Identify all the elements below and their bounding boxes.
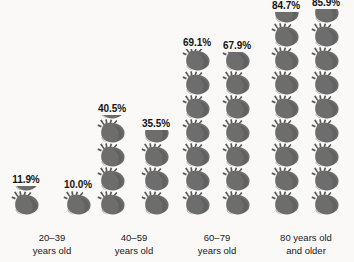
heart-icon-partial (222, 52, 252, 71)
heart-icon (311, 143, 341, 167)
bar-80-plus-a: 84.7% (269, 12, 303, 215)
bar-value-label: 10.0% (64, 179, 92, 190)
category-label-line2: years old (8, 245, 96, 258)
heart-icon (271, 119, 301, 143)
heart-icon-partial (141, 130, 171, 143)
heart-icon (271, 167, 301, 191)
heart-icon (222, 167, 252, 191)
bar-value-label: 11.9% (12, 174, 39, 185)
group-80-plus: 84.7%85.9%80 years oldand older (258, 0, 354, 262)
bar-columns: 40.5%35.5% (92, 115, 176, 215)
bar-60-79-b: 67.9% (220, 52, 254, 215)
heart-icon (311, 191, 341, 215)
heart-icon (271, 47, 301, 71)
category-label: 80 years oldand older (258, 232, 354, 257)
heart-icon-partial (97, 115, 127, 119)
bar-20-39-a: 11.9% (9, 186, 43, 215)
bar-columns: 69.1%67.9% (174, 49, 260, 215)
bar-value-label: 67.9% (223, 40, 251, 51)
heart-icon (311, 23, 341, 47)
heart-icon (141, 191, 171, 215)
heart-icon (182, 143, 212, 167)
heart-icon (222, 119, 252, 143)
heart-icon (311, 47, 341, 71)
heart-icon (182, 95, 212, 119)
category-label-line2: years old (92, 245, 176, 258)
category-label-line2: and older (258, 245, 354, 258)
heart-icon-partial (11, 186, 41, 191)
heart-icon (271, 143, 301, 167)
bar-value-label: 35.5% (142, 118, 170, 129)
category-label-line1: 40–59 (121, 232, 147, 243)
heart-icon (271, 191, 301, 215)
category-label: 20–39years old (8, 232, 96, 257)
heart-icon (222, 143, 252, 167)
heart-icon (222, 71, 252, 95)
bar-60-79-a: 69.1% (180, 49, 214, 215)
heart-icon (11, 191, 41, 215)
heart-icon (311, 167, 341, 191)
bar-value-label: 84.7% (272, 0, 300, 11)
heart-icon (271, 95, 301, 119)
heart-icon (182, 191, 212, 215)
bar-value-label: 85.9% (312, 0, 340, 8)
bar-20-39-b: 10.0% (61, 191, 95, 215)
group-20-39: 11.9%10.0%20–39years old (8, 0, 96, 262)
category-label-line1: 80 years old (280, 232, 332, 243)
heart-icon (182, 167, 212, 191)
heart-icon (141, 167, 171, 191)
heart-icon (311, 95, 341, 119)
heart-icon (97, 143, 127, 167)
heart-icon (97, 167, 127, 191)
heart-icon (182, 119, 212, 143)
bar-80-plus-b: 85.9% (309, 9, 343, 215)
heart-icon (271, 71, 301, 95)
group-60-79: 69.1%67.9%60–79years old (174, 0, 260, 262)
heart-icon (141, 143, 171, 167)
bar-40-59-a: 40.5% (95, 115, 129, 215)
category-label-line2: years old (174, 245, 260, 258)
heart-icon (311, 119, 341, 143)
category-label: 40–59years old (92, 232, 176, 257)
pictogram-chart: 11.9%10.0%20–39years old40.5%35.5%40–59y… (0, 0, 354, 262)
heart-icon (222, 95, 252, 119)
category-label-line1: 60–79 (204, 232, 230, 243)
heart-icon-partial (271, 12, 301, 23)
heart-icon (271, 23, 301, 47)
heart-icon (182, 71, 212, 95)
bar-40-59-b: 35.5% (139, 130, 173, 215)
bar-value-label: 40.5% (98, 103, 126, 114)
heart-icon-partial (311, 9, 341, 23)
category-label-line1: 20–39 (39, 232, 65, 243)
bar-value-label: 69.1% (183, 37, 211, 48)
heart-icon (63, 191, 93, 215)
heart-icon (222, 191, 252, 215)
heart-icon (97, 191, 127, 215)
bar-columns: 84.7%85.9% (258, 9, 354, 215)
heart-icon-partial (182, 49, 212, 71)
category-label: 60–79years old (174, 232, 260, 257)
bar-columns: 11.9%10.0% (8, 186, 96, 215)
group-40-59: 40.5%35.5%40–59years old (92, 0, 176, 262)
heart-icon (311, 71, 341, 95)
heart-icon (97, 119, 127, 143)
